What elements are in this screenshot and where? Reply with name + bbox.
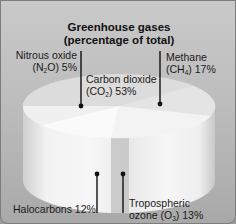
label-tropospheric-ozone: Tropospheric ozone (O3) 13% <box>129 197 203 221</box>
label-halocarbons: Halocarbons 12% <box>13 203 96 215</box>
label-methane-name: Methane <box>166 51 216 63</box>
label-methane-value: (CH4) 17% <box>166 63 216 75</box>
label-nitrous-oxide: Nitrous oxide (N2O) 5% <box>7 49 77 73</box>
title-line-1: Greenhouse gases <box>1 21 236 34</box>
label-nitrous-value: (N2O) 5% <box>7 61 77 73</box>
label-co2-value: (CO2) 53% <box>86 85 157 97</box>
label-nitrous-name: Nitrous oxide <box>7 49 77 61</box>
label-methane: Methane (CH4) 17% <box>166 51 216 75</box>
title-line-2: (percentage of total) <box>1 34 236 47</box>
label-ozone-value: ozone (O3) 13% <box>129 209 203 221</box>
pie-side-ozone-segment <box>111 138 129 214</box>
label-co2-name: Carbon dioxide <box>86 73 157 85</box>
label-carbon-dioxide: Carbon dioxide (CO2) 53% <box>86 73 157 97</box>
chart-title: Greenhouse gases (percentage of total) <box>1 21 236 47</box>
label-ozone-name: Tropospheric <box>129 197 203 209</box>
chart-frame: Greenhouse gases (percentage of total) N… <box>0 0 236 224</box>
